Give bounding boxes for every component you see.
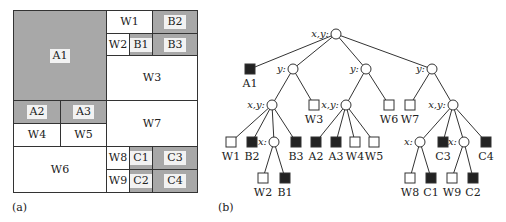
split-node-x2: x:: [404, 136, 425, 147]
leaf-node-c1: C1: [423, 173, 438, 199]
circle-node-icon: [427, 64, 437, 74]
filled-square-icon: [291, 137, 301, 147]
region-b2: B2: [152, 10, 198, 34]
circle-node-icon: [341, 100, 351, 110]
split-label: x,y:: [321, 99, 339, 110]
leaf-label: C3: [435, 150, 450, 163]
split-label: y:: [276, 63, 286, 74]
region-a1: A1: [13, 10, 107, 101]
filled-square-icon: [468, 173, 478, 183]
filled-square-icon: [311, 137, 321, 147]
leaf-label: B3: [288, 150, 303, 163]
split-label: x:: [404, 136, 413, 147]
circle-node-icon: [459, 137, 469, 147]
tree-edge: [453, 105, 486, 142]
tree-edge: [346, 69, 366, 105]
region-label: B3: [164, 38, 185, 52]
leaf-label: W5: [365, 150, 383, 163]
panel-a-caption: (a): [12, 201, 27, 214]
region-label: C3: [164, 151, 185, 165]
filled-square-icon: [481, 137, 491, 147]
region-c1: C1: [129, 146, 153, 170]
circle-node-icon: [288, 64, 298, 74]
circle-node-icon: [269, 137, 279, 147]
leaf-node-w6: W6: [380, 100, 398, 126]
filled-square-icon: [438, 137, 448, 147]
split-label: x:: [448, 136, 457, 147]
leaf-label: C4: [478, 150, 493, 163]
leaf-label: W7: [401, 113, 419, 126]
leaf-node-w9: W9: [443, 173, 461, 199]
region-label: W7: [140, 117, 164, 131]
panel-b-caption: (b): [218, 201, 234, 214]
split-node-xy3: x,y:: [428, 99, 458, 110]
leaf-node-w5: W5: [365, 137, 383, 163]
region-label: W8: [106, 151, 130, 165]
empty-square-icon: [405, 173, 415, 183]
empty-square-icon: [350, 137, 360, 147]
region-label: B1: [130, 38, 151, 52]
tree-edge: [272, 69, 293, 105]
circle-node-icon: [331, 29, 341, 39]
split-label: y:: [415, 63, 425, 74]
split-node-y1: y:: [276, 63, 298, 74]
tree-diagram: x,y:A1y:y:y:x,y:W3x,y:W6W7x,y:W1B2x:B3A2…: [210, 0, 506, 222]
leaf-node-w8: W8: [401, 173, 419, 199]
empty-square-icon: [384, 100, 394, 110]
empty-square-icon: [226, 137, 236, 147]
region-label: A3: [73, 105, 94, 119]
region-label: W4: [25, 128, 49, 142]
split-label: x:: [258, 136, 267, 147]
region-label: A1: [50, 49, 71, 63]
region-label: W9: [106, 174, 130, 188]
region-w6: W6: [13, 146, 107, 193]
region-a3: A3: [60, 100, 107, 124]
split-node-y2: y:: [349, 63, 371, 74]
region-label: B2: [164, 15, 185, 29]
region-w7: W7: [106, 100, 198, 147]
empty-square-icon: [258, 173, 268, 183]
circle-node-icon: [361, 64, 371, 74]
region-w3: W3: [106, 55, 198, 101]
empty-square-icon: [405, 100, 415, 110]
leaf-node-w2: W2: [254, 173, 272, 199]
region-w1: W1: [106, 10, 153, 34]
tree-edge: [272, 105, 296, 142]
leaf-label: C1: [423, 186, 438, 199]
circle-node-icon: [415, 137, 425, 147]
region-w8: W8: [106, 146, 130, 170]
region-c4: C4: [152, 169, 198, 193]
split-label: y:: [349, 63, 359, 74]
leaf-label: C2: [465, 186, 480, 199]
leaf-label: W4: [346, 150, 364, 163]
tree-edge: [272, 105, 274, 142]
quadtree-partition-panel: A1W1B2W2B1B3W3A2A3W4W5W7W6W8C1C3W9C2C4 (…: [0, 0, 210, 222]
leaf-label: A2: [308, 150, 324, 163]
region-a2: A2: [13, 100, 61, 124]
leaf-node-w4: W4: [346, 137, 364, 163]
split-node-x1: x:: [258, 136, 279, 147]
filled-square-icon: [426, 173, 436, 183]
leaf-label: W6: [380, 113, 398, 126]
split-label: x,y:: [311, 28, 329, 39]
circle-node-icon: [448, 100, 458, 110]
leaf-node-c4: C4: [478, 137, 493, 163]
region-label: W5: [71, 128, 95, 142]
empty-square-icon: [309, 100, 319, 110]
tree-edge: [293, 34, 336, 69]
split-label: x,y:: [247, 99, 265, 110]
filled-square-icon: [280, 173, 290, 183]
leaf-node-w7: W7: [401, 100, 419, 126]
quadtree-diagram-panel: x,y:A1y:y:y:x,y:W3x,y:W6W7x,y:W1B2x:B3A2…: [210, 0, 506, 222]
region-label: W2: [106, 38, 130, 52]
leaf-label: A3: [328, 150, 344, 163]
leaf-label: W9: [443, 186, 461, 199]
leaf-node-b3: B3: [288, 137, 303, 163]
split-node-xy2: x,y:: [321, 99, 351, 110]
leaf-node-a3: A3: [328, 137, 344, 163]
region-b3: B3: [152, 33, 198, 56]
region-label: C2: [130, 174, 151, 188]
region-label: A2: [27, 105, 48, 119]
circle-node-icon: [267, 100, 277, 110]
filled-square-icon: [247, 137, 257, 147]
